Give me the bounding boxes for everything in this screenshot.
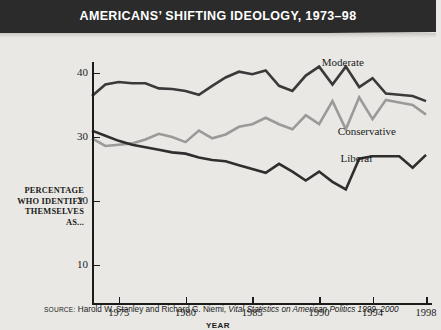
y-axis-title-line-2: WHO IDENTIFY [2, 197, 84, 208]
x-tick-1994 [373, 297, 375, 304]
x-tick-1980 [186, 297, 188, 304]
series-label-liberal: Liberal [340, 152, 372, 164]
title-banner: AMERICANS’ SHIFTING IDEOLOGY, 1973–98 [0, 0, 436, 36]
series-line-conservative [92, 97, 426, 146]
source-authors: Harold W. Stanley and Richard G. Niemi, [78, 305, 226, 314]
source-prefix: SOURCE: [44, 306, 75, 313]
y-axis-title-line-3: THEMSELVES [2, 207, 84, 218]
x-tick-1998 [426, 297, 428, 304]
y-tick-30 [94, 137, 100, 139]
y-axis-line [92, 62, 94, 305]
x-axis-title: YEAR [0, 321, 436, 330]
chart-plot-area: 10203040 197519801985199019941998 YEAR P… [0, 38, 436, 286]
y-tick-label-10: 10 [48, 258, 88, 270]
y-axis-title-line-1: PERCENTAGE [2, 186, 84, 197]
y-tick-10 [94, 265, 100, 267]
y-axis-title: PERCENTAGE WHO IDENTIFY THEMSELVES AS... [2, 186, 84, 228]
y-tick-label-30: 30 [48, 130, 88, 142]
y-tick-label-40: 40 [48, 66, 88, 78]
y-axis-title-line-4: AS... [2, 218, 84, 229]
y-tick-40 [94, 73, 100, 75]
series-label-conservative: Conservative [338, 125, 396, 137]
x-tick-1985 [252, 297, 254, 304]
x-tick-1990 [319, 297, 321, 304]
source-note: SOURCE: Harold W. Stanley and Richard G.… [44, 305, 436, 314]
x-tick-1975 [119, 297, 121, 304]
y-tick-20 [94, 201, 100, 203]
series-line-moderate [92, 67, 426, 102]
page-title: AMERICANS’ SHIFTING IDEOLOGY, 1973–98 [0, 9, 436, 23]
source-work: Vital Statistics on American Politics 19… [228, 305, 398, 314]
series-label-moderate: Moderate [322, 56, 364, 68]
